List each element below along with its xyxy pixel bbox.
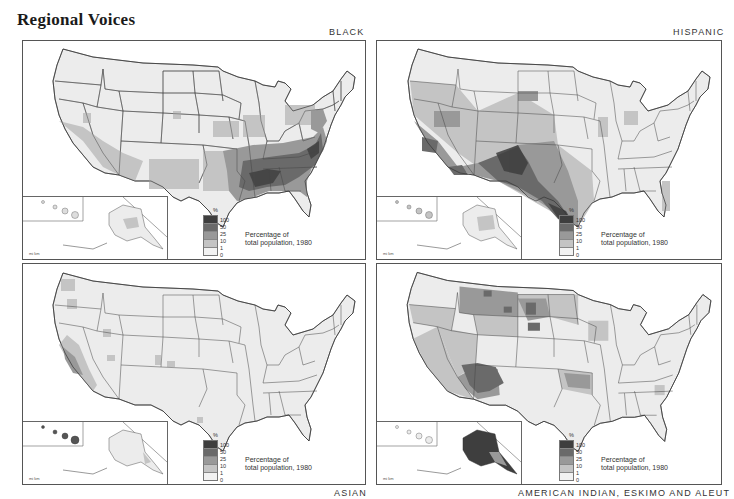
legend-tick: 25 xyxy=(576,231,585,238)
map-panel-black: mi km % 100 50 25 10 1 0 Percentage of t… xyxy=(22,40,366,260)
legend: 100 50 25 10 1 0 xyxy=(203,439,229,481)
legend-label-line2: total population, 1980 xyxy=(245,239,312,247)
legend-tick: 50 xyxy=(576,224,585,231)
legend-label-line2: total population, 1980 xyxy=(601,464,668,472)
legend-tick: 0 xyxy=(220,477,229,484)
legend-tick: 0 xyxy=(576,252,585,259)
legend-tick: 0 xyxy=(576,477,585,484)
legend-swatch-10-25 xyxy=(204,232,217,240)
legend-swatch-0-1 xyxy=(204,473,217,480)
scale-bar: mi km xyxy=(29,476,40,481)
legend-tick: 1 xyxy=(220,245,229,252)
map-caption-asian: ASIAN xyxy=(334,488,367,498)
legend-swatch-25-50 xyxy=(560,449,573,457)
legend-unit: % xyxy=(213,207,218,213)
legend-swatch-1-10 xyxy=(204,240,217,248)
legend-swatch-25-50 xyxy=(560,224,573,232)
legend-unit: % xyxy=(569,432,574,438)
legend-tick: 1 xyxy=(576,470,585,477)
legend-swatches xyxy=(559,215,574,256)
legend-swatches xyxy=(203,215,218,256)
legend-label: Percentage of total population, 1980 xyxy=(245,231,312,247)
legend-swatch-0-1 xyxy=(560,473,573,480)
legend-swatch-1-10 xyxy=(204,465,217,473)
legend-swatch-1-10 xyxy=(560,465,573,473)
legend-tick: 50 xyxy=(220,449,229,456)
map-panel-american-indian: mi km % 100 50 25 10 1 0 Percentage of t… xyxy=(376,263,722,485)
legend-swatch-50-100 xyxy=(204,216,217,224)
inset-alaska-hawaii: mi km xyxy=(23,421,168,484)
legend-swatch-0-1 xyxy=(560,248,573,255)
legend-label: Percentage of total population, 1980 xyxy=(245,456,312,472)
legend-tick: 10 xyxy=(576,238,585,245)
map-panel-hispanic: mi km % 100 50 25 10 1 0 Percentage of t… xyxy=(376,40,722,260)
legend-label-line1: Percentage of xyxy=(601,231,668,239)
legend-label-line1: Percentage of xyxy=(245,231,312,239)
legend-swatch-50-100 xyxy=(560,441,573,449)
legend-label-line1: Percentage of xyxy=(245,456,312,464)
map-caption-american-indian: AMERICAN INDIAN, ESKIMO AND ALEUT xyxy=(518,488,730,498)
legend-swatch-25-50 xyxy=(204,224,217,232)
legend-swatch-25-50 xyxy=(204,449,217,457)
legend-label-line2: total population, 1980 xyxy=(245,464,312,472)
legend-tick: 1 xyxy=(220,470,229,477)
legend-tick: 100 xyxy=(576,442,585,449)
legend: 100 50 25 10 1 0 xyxy=(559,214,585,256)
inset-alaska-hawaii: mi km xyxy=(23,196,168,259)
legend-label: Percentage of total population, 1980 xyxy=(601,231,668,247)
legend-tick: 25 xyxy=(220,231,229,238)
legend: 100 50 25 10 1 0 xyxy=(559,439,585,481)
legend-swatch-10-25 xyxy=(560,232,573,240)
legend-unit: % xyxy=(213,432,218,438)
legend-tick: 0 xyxy=(220,252,229,259)
legend-label-line2: total population, 1980 xyxy=(601,239,668,247)
legend-swatch-1-10 xyxy=(560,240,573,248)
legend-tick: 100 xyxy=(220,442,229,449)
inset-alaska-hawaii: mi km xyxy=(377,421,522,484)
scale-bar: mi km xyxy=(29,251,40,256)
legend-swatches xyxy=(559,440,574,481)
legend-tick: 10 xyxy=(576,463,585,470)
legend-swatch-10-25 xyxy=(560,457,573,465)
legend-label-line1: Percentage of xyxy=(601,456,668,464)
legend: 100 50 25 10 1 0 xyxy=(203,214,229,256)
legend-tick: 50 xyxy=(220,224,229,231)
legend-unit: % xyxy=(569,207,574,213)
legend-swatch-10-25 xyxy=(204,457,217,465)
map-caption-hispanic: HISPANIC xyxy=(673,27,724,37)
legend-tick: 25 xyxy=(576,456,585,463)
scale-bar: mi km xyxy=(383,476,394,481)
legend-label: Percentage of total population, 1980 xyxy=(601,456,668,472)
legend-swatch-50-100 xyxy=(560,216,573,224)
legend-tick: 100 xyxy=(576,217,585,224)
page-title: Regional Voices xyxy=(17,10,135,30)
legend-tick: 100 xyxy=(220,217,229,224)
map-panel-asian: mi km % 100 50 25 10 1 0 Percentage of t… xyxy=(22,263,366,485)
legend-tick: 25 xyxy=(220,456,229,463)
scale-bar: mi km xyxy=(383,251,394,256)
legend-tick: 10 xyxy=(220,238,229,245)
legend-tick: 1 xyxy=(576,245,585,252)
inset-alaska-hawaii: mi km xyxy=(377,196,522,259)
legend-tick: 50 xyxy=(576,449,585,456)
legend-swatch-0-1 xyxy=(204,248,217,255)
legend-tick: 10 xyxy=(220,463,229,470)
legend-swatch-50-100 xyxy=(204,441,217,449)
legend-swatches xyxy=(203,440,218,481)
map-caption-black: BLACK xyxy=(329,27,365,37)
